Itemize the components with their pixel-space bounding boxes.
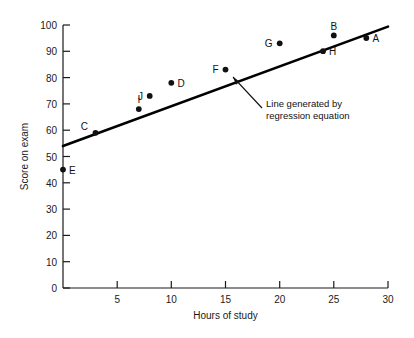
data-point-label-A: A [373,33,380,44]
data-point-I[interactable] [136,106,142,112]
data-point-D[interactable] [168,80,174,86]
data-point-label-F: F [212,64,218,75]
x-axis-title: Hours of study [193,310,257,321]
y-ticklabel-50: 50 [46,152,58,163]
x-ticklabel-5: 5 [114,294,120,305]
y-ticklabel-60: 60 [46,125,58,136]
data-point-label-D: D [178,78,185,89]
data-point-H[interactable] [320,48,326,54]
data-point-label-E: E [69,165,76,176]
y-ticklabel-20: 20 [46,230,58,241]
data-point-label-B: B [330,21,337,32]
x-ticklabel-20: 20 [274,294,286,305]
y-axis-title: Score on exam [19,123,30,190]
x-ticklabel-30: 30 [382,294,394,305]
x-ticklabel-10: 10 [166,294,178,305]
y-ticklabel-90: 90 [46,46,58,57]
data-point-F[interactable] [223,67,229,73]
y-ticklabel-40: 40 [46,178,58,189]
data-point-label-H: H [329,46,336,57]
data-point-C[interactable] [93,130,99,136]
data-point-G[interactable] [277,40,283,46]
y-ticklabel-10: 10 [46,257,58,268]
callout-text-line-2: regression equation [266,110,349,121]
data-point-B[interactable] [331,33,337,39]
x-ticklabel-25: 25 [328,294,340,305]
scatter-plot-figure: 100 90 80 70 60 50 40 30 20 10 0 5 10 15… [0,0,414,338]
data-point-A[interactable] [363,35,369,41]
data-point-label-J: J [138,91,143,102]
y-ticklabel-100: 100 [40,20,57,31]
y-ticklabel-80: 80 [46,73,58,84]
y-ticklabel-70: 70 [46,99,58,110]
data-point-E[interactable] [60,167,66,173]
x-ticklabel-15: 15 [220,294,232,305]
y-ticklabel-0: 0 [51,283,57,294]
data-point-label-G: G [265,38,273,49]
data-point-J[interactable] [147,93,153,99]
callout-text-line-1: Line generated by [266,98,342,109]
y-ticklabel-30: 30 [46,204,58,215]
data-point-label-C: C [81,121,88,132]
